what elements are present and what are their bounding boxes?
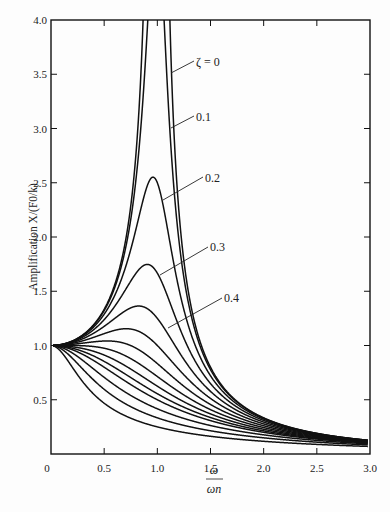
x-tick-label: 1.0	[150, 462, 164, 474]
curve-zeta-1.2	[53, 346, 368, 444]
annotation-label-zeta-0.1: 0.1	[196, 110, 211, 124]
annotation-label-zeta-0.4: 0.4	[224, 291, 239, 305]
x-tick-label: 0.5	[97, 462, 111, 474]
plot-frame	[51, 20, 370, 454]
curve-zeta-0.1	[163, 0, 368, 440]
annotation-label-zeta-0: ζ = 0	[196, 55, 220, 69]
curve-zeta-0.9	[53, 346, 368, 443]
x-tick-label: 0	[44, 462, 50, 474]
x-axis-label-numerator: ω	[210, 463, 218, 477]
x-tick-label: 3.0	[363, 462, 377, 474]
curve-zeta-0.5	[53, 329, 368, 441]
x-axis-label-denominator: ωn	[207, 482, 221, 496]
y-tick-label: 4.0	[33, 14, 47, 26]
amplification-chart: 00.51.01.52.02.53.00.51.01.52.02.53.03.5…	[0, 0, 390, 512]
y-axis-label: Amplification X/(F0/k)	[27, 183, 40, 291]
axis-ticks: 00.51.01.52.02.53.00.51.01.52.02.53.03.5…	[33, 14, 377, 474]
annotation-label-zeta-0.2: 0.2	[205, 171, 220, 185]
annotation-label-zeta-0.3: 0.3	[210, 240, 225, 254]
curve-zeta-0	[53, 0, 144, 345]
annotation-leader	[171, 116, 194, 128]
y-tick-label: 0.5	[33, 394, 47, 406]
x-tick-label: 2.0	[257, 462, 271, 474]
y-tick-label: 3.5	[33, 68, 47, 80]
x-tick-label: 2.5	[310, 462, 324, 474]
annotation-leader	[163, 177, 203, 200]
annotation-leader	[160, 247, 208, 275]
y-tick-label: 1.0	[33, 340, 47, 352]
annotation-leader	[171, 61, 194, 73]
curve-zeta-1.5	[53, 346, 368, 445]
y-tick-label: 3.0	[33, 123, 47, 135]
